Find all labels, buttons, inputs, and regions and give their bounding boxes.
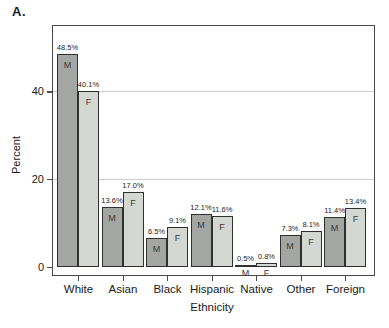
value-label-native-f: 0.8%	[258, 252, 275, 261]
value-label-asian-f: 17.0%	[122, 181, 143, 190]
panel-label: A.	[12, 4, 26, 19]
series-letter-asian-m: M	[108, 213, 116, 223]
gridline-20	[53, 179, 374, 180]
bar-white-m	[57, 54, 78, 267]
x-tick-hispanic	[212, 276, 213, 281]
plot-area: 48.5%M40.1%F13.6%M17.0%F6.5%M9.1%F12.1%M…	[52, 25, 375, 276]
bar-native-m	[235, 265, 256, 267]
y-tick-40	[47, 91, 52, 92]
value-label-other-m: 7.3%	[281, 224, 298, 233]
x-label-black: Black	[153, 283, 181, 295]
series-letter-foreign-m: M	[331, 223, 339, 233]
x-label-asian: Asian	[109, 283, 138, 295]
series-letter-other-m: M	[286, 241, 294, 251]
value-label-foreign-f: 13.4%	[345, 197, 366, 206]
x-tick-foreign	[345, 276, 346, 281]
value-label-black-m: 6.5%	[148, 227, 165, 236]
series-letter-native-f: F	[264, 268, 270, 278]
bar-other-m	[280, 235, 301, 267]
y-axis-title: Percent	[9, 105, 23, 205]
bar-chart-figure: A. Percent 48.5%M40.1%F13.6%M17.0%F6.5%M…	[0, 0, 389, 328]
y-tick-label-20: 20	[18, 173, 44, 185]
value-label-hispanic-f: 11.6%	[212, 205, 233, 214]
series-letter-white-m: M	[64, 60, 72, 70]
y-tick-label-40: 40	[18, 85, 44, 97]
x-label-other: Other	[287, 283, 316, 295]
series-letter-black-m: M	[153, 244, 161, 254]
y-tick-0	[47, 267, 52, 268]
series-letter-hispanic-m: M	[197, 220, 205, 230]
y-tick-20	[47, 179, 52, 180]
x-tick-other	[301, 276, 302, 281]
x-label-foreign: Foreign	[326, 283, 365, 295]
value-label-native-m: 0.5%	[237, 254, 254, 263]
series-letter-white-f: F	[86, 97, 92, 107]
y-tick-label-0: 0	[18, 261, 44, 273]
value-label-foreign-m: 11.4%	[324, 206, 345, 215]
x-label-native: Native	[240, 283, 273, 295]
value-label-asian-m: 13.6%	[101, 196, 122, 205]
x-label-white: White	[64, 283, 93, 295]
series-letter-black-f: F	[175, 233, 181, 243]
x-axis-title: Ethnicity	[190, 301, 233, 313]
series-letter-native-m: M	[242, 268, 250, 278]
value-label-white-m: 48.5%	[57, 43, 78, 52]
series-letter-other-f: F	[308, 237, 314, 247]
series-letter-foreign-f: F	[353, 214, 359, 224]
value-label-white-f: 40.1%	[78, 80, 99, 89]
value-label-black-f: 9.1%	[169, 216, 186, 225]
value-label-other-f: 8.1%	[302, 220, 319, 229]
gridline-40	[53, 91, 374, 92]
x-label-hispanic: Hispanic	[190, 283, 234, 295]
bar-native-f	[256, 263, 277, 267]
x-tick-native	[256, 276, 257, 281]
series-letter-asian-f: F	[130, 198, 136, 208]
bar-white-f	[78, 91, 99, 267]
value-label-hispanic-m: 12.1%	[190, 203, 211, 212]
x-tick-asian	[123, 276, 124, 281]
x-tick-black	[167, 276, 168, 281]
x-tick-white	[78, 276, 79, 281]
series-letter-hispanic-f: F	[219, 222, 225, 232]
